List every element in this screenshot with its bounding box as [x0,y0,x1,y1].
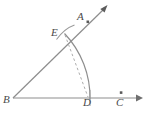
point-label-d: D [83,97,91,108]
construction-canvas [0,0,147,118]
point-label-e: E [51,27,58,38]
ray-bc-arrowhead [136,95,143,102]
ray-ba [13,5,108,98]
geometry-figure: A E B D C [0,0,147,118]
point-dot-a [87,21,90,24]
point-dot-c [120,91,123,94]
point-label-a: A [77,11,84,22]
ray-bc [13,95,143,102]
point-label-b: B [3,94,10,105]
point-label-c: C [116,97,123,108]
